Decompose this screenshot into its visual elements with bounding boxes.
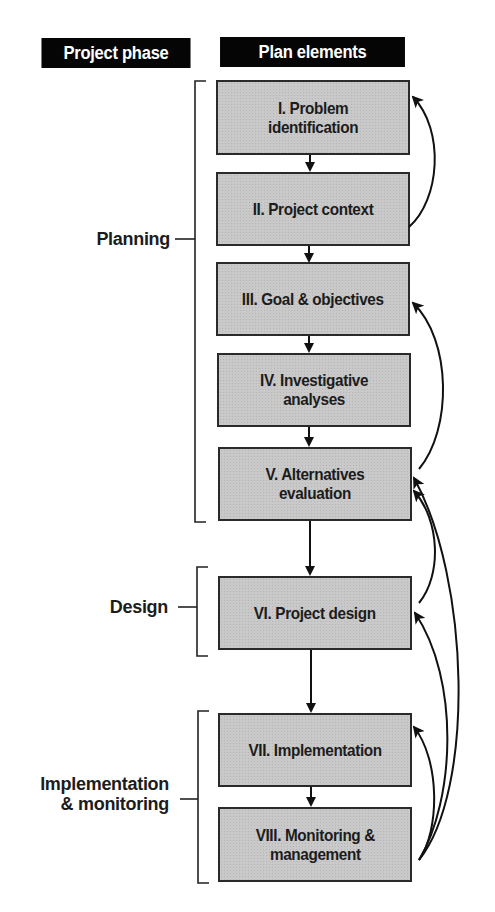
element-box-project-design: VI. Project design (218, 576, 412, 650)
element-label: III. Goal & objectives (242, 290, 384, 309)
element-box-problem-identification: I. Problem identification (216, 80, 410, 155)
phase-label-design: Design (110, 597, 168, 617)
element-box-investigative-analyses: IV. Investigative analyses (217, 353, 411, 427)
element-label: VIII. Monitoring & management (255, 826, 374, 864)
element-box-implementation: VII. Implementation (218, 713, 412, 787)
element-box-goal-objectives: III. Goal & objectives (216, 262, 410, 336)
feedback-VIII-to-VII (414, 727, 434, 860)
feedback-VIII-to-V (414, 478, 459, 860)
phase-label-implementation: Implementation & monitoring (40, 774, 169, 814)
feedback-arrows (409, 97, 459, 860)
element-label: VI. Project design (254, 604, 376, 623)
element-label: II. Project context (253, 200, 374, 219)
feedback-II-to-I (409, 97, 435, 227)
feedback-VI-to-V (414, 491, 435, 603)
element-label: V. Alternatives evaluation (266, 465, 365, 503)
bracket-planning (175, 81, 206, 522)
element-label: IV. Investigative analyses (260, 371, 368, 409)
element-label: VII. Implementation (248, 741, 381, 760)
bracket-design (178, 567, 208, 656)
element-box-alternatives-evaluation: V. Alternatives evaluation (218, 447, 412, 521)
project-phase-header: Project phase (41, 38, 190, 68)
bracket-implementation (180, 711, 209, 883)
plan-elements-header: Plan elements (220, 37, 405, 67)
feedback-V-to-III (413, 303, 443, 469)
feedback-VIII-to-VI (415, 613, 447, 860)
element-box-project-context: II. Project context (216, 172, 410, 246)
phase-label-planning: Planning (96, 229, 170, 249)
element-label: I. Problem identification (268, 99, 358, 137)
element-box-monitoring-management: VIII. Monitoring & management (218, 807, 412, 882)
